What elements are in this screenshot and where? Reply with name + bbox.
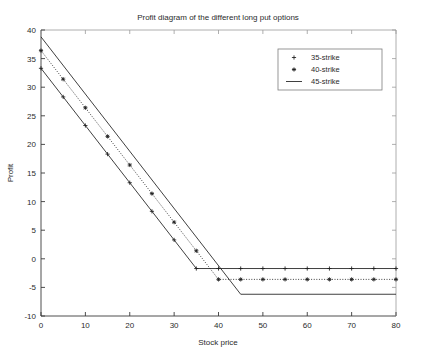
chart-legend: 35-strike40-strike45-strike xyxy=(278,49,382,90)
x-tick-label: 60 xyxy=(303,321,312,330)
x-tick-label: 40 xyxy=(214,321,223,330)
y-tick-label: 30 xyxy=(27,83,36,92)
x-tick-label: 50 xyxy=(258,321,267,330)
data-point-marker-star xyxy=(128,163,132,167)
y-tick-label: 5 xyxy=(32,226,37,235)
data-point-marker-plus xyxy=(350,266,354,270)
data-point-marker-plus xyxy=(327,266,331,270)
data-point-marker-star xyxy=(83,106,87,110)
series-line xyxy=(41,68,396,268)
data-point-marker-star xyxy=(372,277,376,281)
data-point-marker-star xyxy=(239,277,243,281)
x-axis-label: Stock price xyxy=(198,338,238,347)
x-tick-label: 20 xyxy=(125,321,134,330)
data-point-marker-plus xyxy=(261,266,265,270)
x-tick-label: 30 xyxy=(170,321,179,330)
y-tick-label: 10 xyxy=(27,198,36,207)
data-point-marker-star xyxy=(61,77,65,81)
data-point-marker-star xyxy=(150,191,154,195)
data-point-marker-star xyxy=(283,277,287,281)
data-point-marker-star xyxy=(105,134,109,138)
x-tick-label: 80 xyxy=(392,321,401,330)
y-tick-label: 25 xyxy=(27,112,36,121)
data-point-marker-plus xyxy=(372,266,376,270)
chart-title: Profit diagram of the different long put… xyxy=(137,13,299,22)
data-point-marker-plus xyxy=(394,266,398,270)
legend-label: 45-strike xyxy=(311,77,340,86)
data-point-marker-star xyxy=(261,277,265,281)
x-tick-label: 70 xyxy=(347,321,356,330)
y-tick-label: 20 xyxy=(27,140,36,149)
data-point-marker-star xyxy=(327,277,331,281)
data-point-marker-star xyxy=(194,249,198,253)
chart-figure: Profit diagram of the different long put… xyxy=(0,0,421,353)
series-35-strike xyxy=(39,66,398,270)
x-tick-label: 0 xyxy=(39,321,44,330)
data-point-marker-star xyxy=(39,48,43,52)
data-point-marker-star xyxy=(292,67,296,71)
y-tick-label: 0 xyxy=(32,255,37,264)
x-tick-label: 10 xyxy=(81,321,90,330)
y-tick-label: 40 xyxy=(27,26,36,35)
data-point-marker-star xyxy=(350,277,354,281)
y-tick-label: 15 xyxy=(27,169,36,178)
data-point-marker-plus xyxy=(305,266,309,270)
y-axis-label: Profit xyxy=(6,163,15,182)
legend-label: 35-strike xyxy=(311,53,340,62)
data-point-marker-star xyxy=(216,277,220,281)
data-point-marker-star xyxy=(305,277,309,281)
data-point-marker-star xyxy=(394,277,398,281)
legend-label: 40-strike xyxy=(311,65,340,74)
y-tick-label: -5 xyxy=(29,283,37,292)
y-tick-label: 35 xyxy=(27,55,36,64)
profit-diagram-chart: Profit diagram of the different long put… xyxy=(0,0,421,353)
data-point-marker-plus xyxy=(239,266,243,270)
y-tick-label: -10 xyxy=(24,312,36,321)
data-point-marker-star xyxy=(172,220,176,224)
data-point-marker-plus xyxy=(283,266,287,270)
